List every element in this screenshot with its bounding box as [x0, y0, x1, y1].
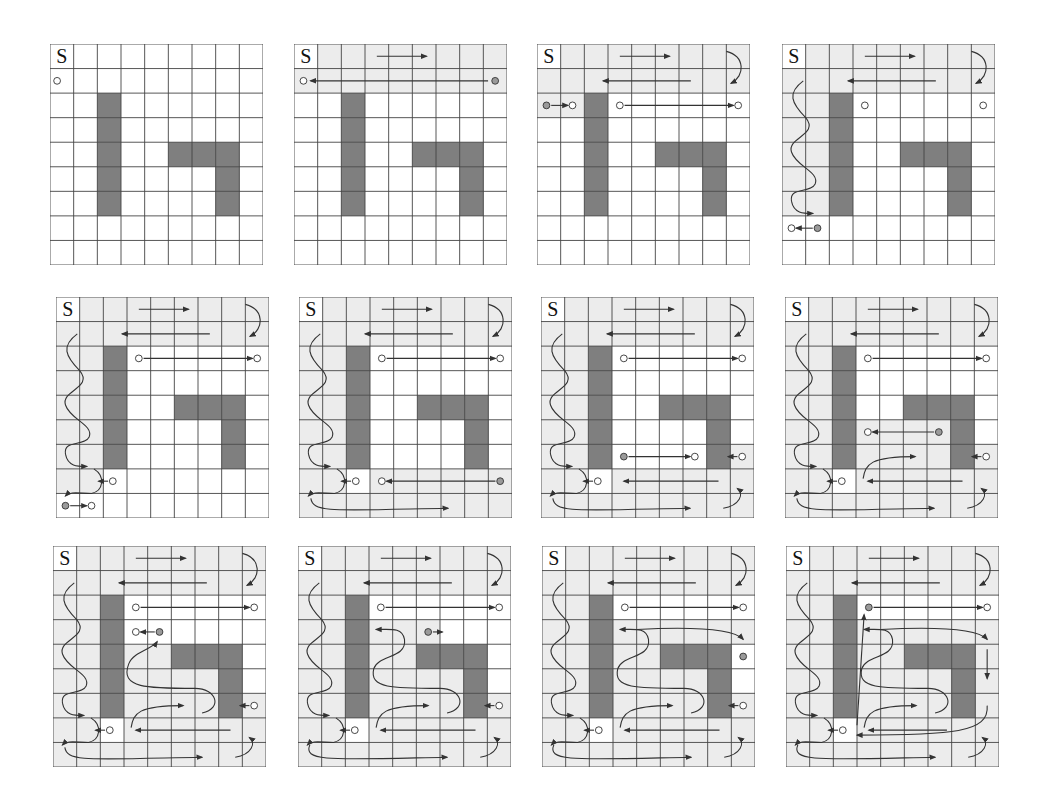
start-label: S: [547, 298, 558, 320]
waypoint-open: [569, 102, 576, 109]
waypoint-open: [739, 355, 746, 362]
waypoint-open: [135, 355, 142, 362]
waypoint-filled: [492, 77, 499, 84]
grid-panel-svg: S: [298, 546, 511, 767]
waypoint-filled: [543, 102, 550, 109]
waypoint-open: [980, 102, 987, 109]
start-label: S: [59, 547, 70, 569]
grid-panel-svg: S: [786, 546, 999, 767]
waypoint-open: [132, 604, 139, 611]
waypoint-open: [864, 429, 871, 436]
grid-panel-8: S: [785, 297, 998, 518]
waypoint-open: [739, 453, 746, 460]
waypoint-filled: [740, 653, 747, 660]
grid-panel-1: S: [50, 44, 263, 265]
waypoint-open: [864, 355, 871, 362]
waypoint-open: [984, 604, 991, 611]
waypoint-open: [378, 355, 385, 362]
waypoint-open: [839, 727, 846, 734]
waypoint-open: [300, 77, 307, 84]
waypoint-open: [735, 102, 742, 109]
grid-panel-svg: S: [50, 44, 263, 265]
waypoint-filled: [156, 629, 163, 636]
waypoint-open: [352, 478, 359, 485]
waypoint-open: [496, 702, 503, 709]
waypoint-open: [740, 604, 747, 611]
waypoint-open: [88, 502, 95, 509]
waypoint-open: [616, 102, 623, 109]
grid-panel-svg: S: [299, 297, 512, 518]
waypoint-open: [691, 453, 698, 460]
waypoint-filled: [935, 429, 942, 436]
waypoint-filled: [425, 629, 432, 636]
start-label: S: [788, 45, 799, 67]
waypoint-open: [109, 478, 116, 485]
grid-panel-svg: S: [542, 546, 755, 767]
waypoint-open: [983, 453, 990, 460]
waypoint-open: [378, 478, 385, 485]
waypoint-open: [621, 604, 628, 611]
start-label: S: [543, 45, 554, 67]
start-label: S: [62, 298, 73, 320]
grid-panel-svg: S: [294, 44, 507, 265]
grid-panel-svg: S: [56, 297, 269, 518]
waypoint-open: [496, 604, 503, 611]
start-label: S: [548, 547, 559, 569]
start-label: S: [305, 298, 316, 320]
waypoint-open: [351, 727, 358, 734]
grid-panel-6: S: [299, 297, 512, 518]
waypoint-open: [497, 355, 504, 362]
grid-panel-svg: S: [541, 297, 754, 518]
grid-panel-10: S: [298, 546, 511, 767]
grid-panel-svg: S: [53, 546, 266, 767]
waypoint-open: [838, 478, 845, 485]
grid-panel-12: S: [786, 546, 999, 767]
waypoint-nodes: [54, 77, 61, 84]
grid-panel-4: S: [782, 44, 995, 265]
waypoint-open: [983, 355, 990, 362]
start-label: S: [791, 298, 802, 320]
grid-panel-3: S: [537, 44, 750, 265]
waypoint-open: [620, 355, 627, 362]
waypoint-open: [594, 478, 601, 485]
waypoint-open: [251, 604, 258, 611]
start-label: S: [304, 547, 315, 569]
grid-panel-7: S: [541, 297, 754, 518]
waypoint-open: [251, 702, 258, 709]
grid-panel-9: S: [53, 546, 266, 767]
grid-panel-svg: S: [537, 44, 750, 265]
waypoint-open: [788, 225, 795, 232]
waypoint-open: [254, 355, 261, 362]
waypoint-open: [861, 102, 868, 109]
waypoint-open: [54, 77, 61, 84]
grid-panel-2: S: [294, 44, 507, 265]
grid-panel-svg: S: [785, 297, 998, 518]
grid-panel-5: S: [56, 297, 269, 518]
waypoint-filled: [814, 225, 821, 232]
start-label: S: [300, 45, 311, 67]
start-label: S: [792, 547, 803, 569]
waypoint-filled: [497, 478, 504, 485]
grid-panel-svg: S: [782, 44, 995, 265]
grid-panel-11: S: [542, 546, 755, 767]
waypoint-filled: [62, 502, 69, 509]
waypoint-open: [595, 727, 602, 734]
waypoint-open: [740, 702, 747, 709]
waypoint-filled: [865, 604, 872, 611]
waypoint-open: [132, 629, 139, 636]
start-label: S: [56, 45, 67, 67]
waypoint-filled: [620, 453, 627, 460]
waypoint-open: [377, 604, 384, 611]
waypoint-open: [106, 727, 113, 734]
